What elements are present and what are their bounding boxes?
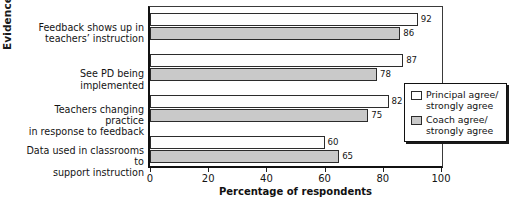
category-label: Feedback shows up inteachers’ instructio… bbox=[16, 22, 144, 45]
legend-item-label: Coach agree/strongly agree bbox=[426, 114, 493, 136]
category-label-line: teachers’ instruction bbox=[16, 33, 144, 44]
x-axis-title: Percentage of respondents bbox=[150, 186, 441, 197]
x-axis-tick-label: 100 bbox=[431, 172, 450, 185]
bar bbox=[150, 68, 377, 81]
y-axis-title: Evidence bbox=[0, 0, 14, 68]
category-label-group: Feedback shows up inteachers’ instructio… bbox=[16, 10, 144, 168]
legend-item-label-line: Coach agree/ bbox=[426, 114, 493, 125]
category-label-line: Teachers changing practice bbox=[16, 104, 144, 127]
bar-value-label: 82 bbox=[392, 95, 403, 108]
x-axis-tick-label: 20 bbox=[202, 172, 215, 185]
category-label: Data used in classrooms tosupport instru… bbox=[16, 145, 144, 179]
bar-value-label: 78 bbox=[380, 68, 391, 81]
horizontal-bar-chart: Evidence Feedback shows up inteachers’ i… bbox=[0, 0, 520, 204]
bar-value-label: 86 bbox=[403, 27, 414, 40]
gray-swatch-icon bbox=[411, 116, 422, 125]
category-label-line: Data used in classrooms to bbox=[16, 145, 144, 168]
category-label: Teachers changing practicein response to… bbox=[16, 104, 144, 138]
x-axis-tick-label: 80 bbox=[376, 172, 389, 185]
category-label: See PD being implemented bbox=[16, 68, 144, 91]
legend-item-label-line: Principal agree/ bbox=[426, 89, 498, 100]
bar bbox=[150, 13, 418, 26]
bar bbox=[150, 54, 403, 67]
white-swatch-icon bbox=[411, 91, 422, 100]
bar bbox=[150, 136, 325, 149]
bar bbox=[150, 95, 389, 108]
category-label-line: Feedback shows up in bbox=[16, 22, 144, 33]
x-axis-tick-labels: 020406080100 bbox=[150, 172, 441, 186]
bar bbox=[150, 109, 368, 122]
x-axis-tick-label: 60 bbox=[318, 172, 331, 185]
x-axis-tick-label: 0 bbox=[147, 172, 153, 185]
bar bbox=[150, 27, 400, 40]
bar-value-label: 75 bbox=[371, 109, 382, 122]
bar-value-label: 65 bbox=[342, 150, 353, 163]
bar-value-label: 92 bbox=[421, 13, 432, 26]
legend-item-label: Principal agree/strongly agree bbox=[426, 89, 498, 111]
legend-item-label-line: strongly agree bbox=[426, 125, 493, 136]
bar bbox=[150, 150, 339, 163]
legend-item: Coach agree/strongly agree bbox=[411, 114, 501, 136]
category-label-line: See PD being implemented bbox=[16, 68, 144, 91]
legend-item: Principal agree/strongly agree bbox=[411, 89, 501, 111]
category-label-line: support instruction bbox=[16, 167, 144, 178]
category-label-line: in response to feedback bbox=[16, 126, 144, 137]
x-axis-tick-label: 40 bbox=[260, 172, 273, 185]
plot-area: 9286877882756065 bbox=[150, 7, 441, 166]
legend-item-label-line: strongly agree bbox=[426, 100, 498, 111]
bar-value-label: 60 bbox=[328, 136, 339, 149]
bar-value-label: 87 bbox=[406, 54, 417, 67]
legend: Principal agree/strongly agreeCoach agre… bbox=[404, 83, 507, 142]
